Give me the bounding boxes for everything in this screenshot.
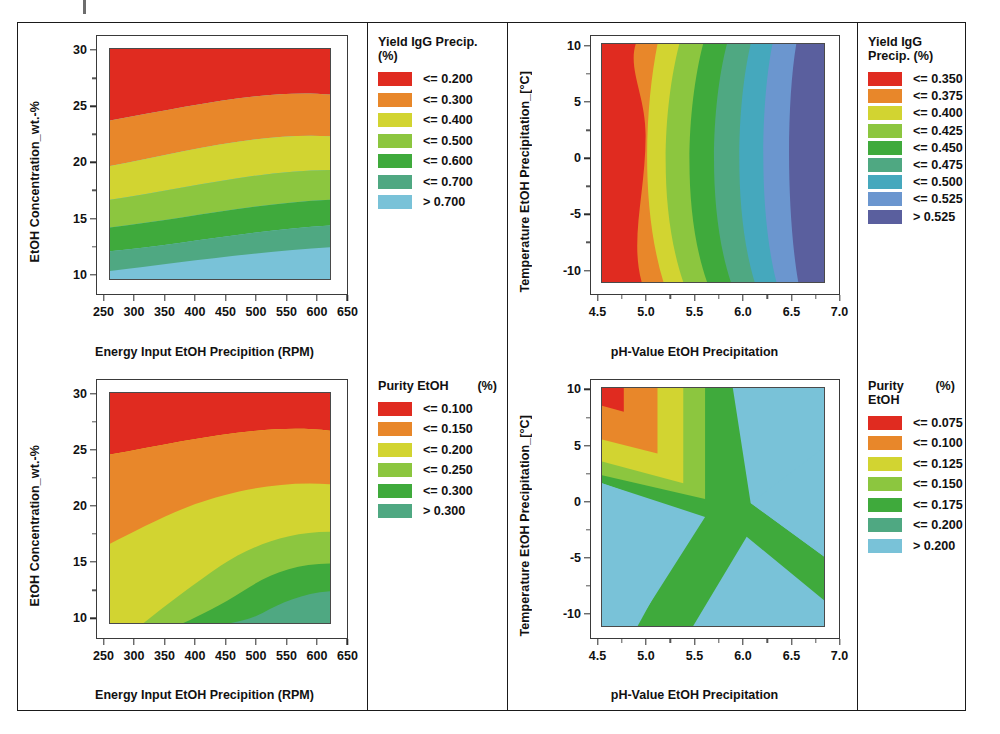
x-tick: 450 — [215, 639, 236, 663]
legend-entry: <= 0.250 — [378, 463, 503, 477]
x-tick: 6.5 — [783, 639, 800, 663]
legend-swatch — [868, 416, 902, 430]
x-tick: 250 — [93, 295, 114, 319]
legend-swatch — [868, 457, 902, 471]
x-tick: 450 — [215, 295, 236, 319]
legend-swatch — [868, 175, 902, 189]
legend-title: Purity EtOH(%) — [378, 379, 503, 393]
legend-swatch — [378, 134, 412, 148]
legend-swatch — [868, 498, 902, 512]
y-tick: 20 — [73, 499, 96, 513]
legend-label: <= 0.200 — [423, 443, 473, 457]
legend-label: <= 0.150 — [913, 477, 963, 491]
y-tick: 10 — [567, 382, 590, 396]
legend-label: > 0.300 — [423, 504, 465, 518]
x-tick: 5.0 — [637, 295, 654, 319]
legend-entry: <= 0.700 — [378, 175, 503, 189]
scan-artifact — [83, 0, 86, 14]
legend-entry: <= 0.350 — [868, 72, 961, 86]
legend-entry: <= 0.200 — [378, 443, 503, 457]
x-tick: 6.0 — [734, 639, 751, 663]
x-tick: 7.0 — [831, 639, 848, 663]
legend-entry: <= 0.200 — [868, 518, 961, 532]
legend-label: <= 0.475 — [913, 158, 963, 172]
legend-label: <= 0.300 — [423, 93, 473, 107]
legend-label: <= 0.200 — [423, 72, 473, 86]
legend-swatch — [378, 113, 412, 127]
y-tick: 0 — [574, 495, 590, 509]
legend-purity-rpm-concentration: Purity EtOH(%) <= 0.100 <= 0.150 <= 0.20… — [368, 367, 508, 711]
legend-title: Yield IgG Precip. (%) — [378, 35, 503, 63]
x-axis-label: Energy Input EtOH Precipition (RPM) — [48, 688, 361, 702]
x-tick: 600 — [307, 639, 328, 663]
x-tick: 400 — [185, 639, 206, 663]
panel-yield-rpm-concentration: EtOH Concentration_wt.-% Energy Input Et… — [18, 23, 368, 367]
legend-entry: <= 0.150 — [378, 422, 503, 436]
y-tick: 10 — [73, 611, 96, 625]
x-axis-label: pH-Value EtOH Precipitation — [538, 345, 851, 359]
legend-label: <= 0.150 — [423, 422, 473, 436]
legend-swatch — [378, 484, 412, 498]
legend-entry: > 0.700 — [378, 195, 503, 209]
legend-label: <= 0.500 — [423, 134, 473, 148]
legend-swatch — [378, 443, 412, 457]
x-tick: 500 — [246, 295, 267, 319]
x-tick: 350 — [154, 295, 175, 319]
legend-label: > 0.700 — [423, 195, 465, 209]
x-tick: 300 — [124, 295, 145, 319]
legend-swatch — [868, 518, 902, 532]
legend-label: <= 0.450 — [913, 141, 963, 155]
legend-label: <= 0.300 — [423, 484, 473, 498]
legend-label: <= 0.600 — [423, 154, 473, 168]
x-tick: 550 — [276, 295, 297, 319]
y-tick: 20 — [73, 155, 96, 169]
legend-label: <= 0.100 — [913, 436, 963, 450]
legend-entry: <= 0.300 — [378, 93, 503, 107]
y-tick: -10 — [563, 607, 590, 621]
legend-label: <= 0.525 — [913, 192, 963, 206]
y-tick: 15 — [73, 212, 96, 226]
legend-purity-ph-temperature: Purity EtOH(%) <= 0.075 <= 0.100 <= 0.12… — [858, 367, 965, 711]
x-tick: 400 — [185, 295, 206, 319]
legend-entry: <= 0.500 — [378, 134, 503, 148]
x-tick: 550 — [276, 639, 297, 663]
legend-swatch — [868, 539, 902, 553]
axis-area-2: 30 25 20 15 10 250 300 350 400 450 500 5… — [96, 379, 348, 639]
x-tick: 300 — [124, 639, 145, 663]
legend-entry: <= 0.525 — [868, 192, 961, 206]
legend-label: > 0.200 — [913, 539, 955, 553]
legend-label: <= 0.200 — [913, 518, 963, 532]
legend-swatch — [378, 402, 412, 416]
y-tick: -5 — [570, 207, 590, 221]
legend-swatch — [868, 72, 902, 86]
axis-area-3: 10 5 0 -5 -10 4.5 5.0 5.5 6.0 6.5 7.0 — [590, 379, 840, 639]
legend-swatch — [868, 106, 902, 120]
x-tick: 7.0 — [831, 295, 848, 319]
legend-entry: <= 0.600 — [378, 154, 503, 168]
y-tick: 30 — [73, 387, 96, 401]
legend-swatch — [868, 477, 902, 491]
legend-entry: <= 0.500 — [868, 175, 961, 189]
y-tick: 15 — [73, 555, 96, 569]
legend-entry: <= 0.375 — [868, 89, 961, 103]
y-tick: 5 — [574, 439, 590, 453]
x-tick: 4.5 — [589, 639, 606, 663]
legend-entry: <= 0.100 — [868, 436, 961, 450]
legend-swatch — [378, 154, 412, 168]
legend-label: <= 0.400 — [913, 106, 963, 120]
legend-swatch — [868, 158, 902, 172]
panel-purity-rpm-concentration: EtOH Concentration_wt.-% Energy Input Et… — [18, 367, 368, 711]
x-tick: 350 — [154, 639, 175, 663]
contour-surface-2 — [109, 392, 331, 624]
legend-label: <= 0.700 — [423, 175, 473, 189]
legend-swatch — [378, 93, 412, 107]
legend-entry: <= 0.475 — [868, 158, 961, 172]
legend-swatch — [378, 504, 412, 518]
legend-swatch — [378, 175, 412, 189]
legend-entry: <= 0.100 — [378, 402, 503, 416]
legend-entry: <= 0.450 — [868, 141, 961, 155]
x-tick: 500 — [246, 639, 267, 663]
x-axis-label: pH-Value EtOH Precipitation — [538, 688, 851, 702]
panel-yield-ph-temperature: Temperature EtOH Precipitation_[°C] pH-V… — [508, 23, 858, 367]
legend-swatch — [378, 72, 412, 86]
